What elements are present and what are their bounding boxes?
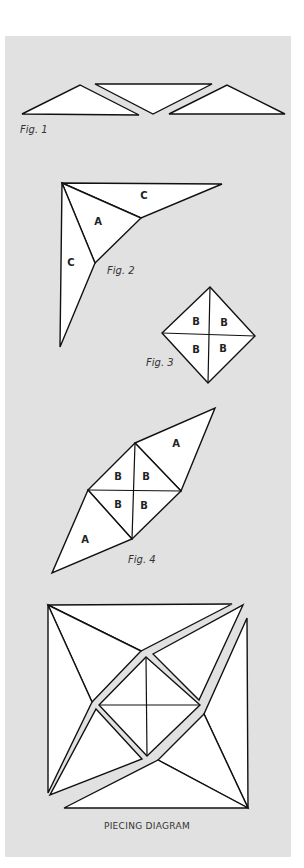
fig1-triangles xyxy=(22,84,285,115)
fig1-label: Fig. 1 xyxy=(20,124,48,135)
fig2-label-a: A xyxy=(94,216,102,227)
quilt-diagram: Fig. 1 C A C Fig. 2 B B B B Fig. 3 A B B… xyxy=(0,0,304,868)
fig3-label-b3: B xyxy=(192,344,200,355)
fig3-diamond xyxy=(162,287,255,383)
fig4-label-b3: B xyxy=(114,499,122,510)
piecing-diagram xyxy=(48,604,248,808)
fig4-label-b1: B xyxy=(114,471,122,482)
fig3-label: Fig. 3 xyxy=(146,357,174,368)
piecing-diagram-caption: PIECING DIAGRAM xyxy=(104,821,190,831)
fig2-label-c-top: C xyxy=(140,190,147,201)
fig4-label-b2: B xyxy=(142,471,150,482)
fig4-unit xyxy=(52,408,215,573)
fig3-label-b1: B xyxy=(192,316,200,327)
fig2-label: Fig. 2 xyxy=(107,265,135,276)
fig3-label-b4: B xyxy=(219,343,227,354)
fig4-label-a-top: A xyxy=(172,438,180,449)
fig4-label: Fig. 4 xyxy=(128,554,156,565)
fig3-label-b2: B xyxy=(220,317,228,328)
fig4-label-a-bottom: A xyxy=(81,534,89,545)
fig2-label-c-left: C xyxy=(67,257,74,268)
fig4-label-b4: B xyxy=(140,500,148,511)
